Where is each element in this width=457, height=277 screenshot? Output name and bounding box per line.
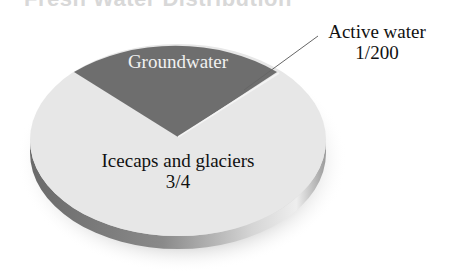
label-active-water: Active water 1/200 — [312, 21, 442, 63]
label-icecaps: Icecaps and glaciers 3/4 — [78, 150, 278, 192]
label-active-value: 1/200 — [312, 42, 442, 63]
label-groundwater: Groundwater — [108, 51, 248, 72]
label-icecaps-value: 3/4 — [78, 171, 278, 192]
label-active-name: Active water — [312, 21, 442, 42]
label-icecaps-name: Icecaps and glaciers — [78, 150, 278, 171]
